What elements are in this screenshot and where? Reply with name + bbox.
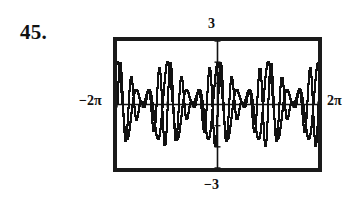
window-label-ymin: −3 xyxy=(204,178,219,192)
window-label-xmax: 2π xyxy=(327,94,342,108)
window-label-ymax: 3 xyxy=(208,17,215,31)
graphing-calculator-screen xyxy=(113,37,322,172)
plot-svg xyxy=(117,41,318,168)
problem-number: 45. xyxy=(20,20,47,45)
window-label-xmin: −2π xyxy=(79,94,102,108)
exercise-figure: 45. 3 −3 −2π 2π xyxy=(0,0,352,203)
plot-area xyxy=(117,41,318,168)
